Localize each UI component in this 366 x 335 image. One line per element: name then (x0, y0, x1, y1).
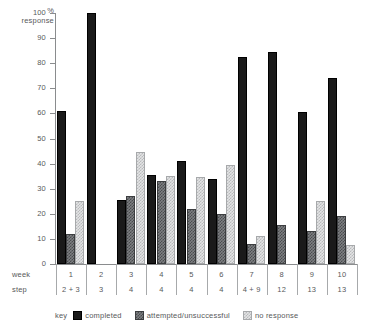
bar-completed-week-7 (238, 57, 247, 264)
step-label-8: 12 (267, 285, 297, 294)
bar-completed-week-1 (57, 111, 66, 264)
y-axis-tick-label: 100 (12, 8, 46, 17)
bar-noresponse-week-5 (196, 177, 205, 264)
bar-attempted-week-6 (217, 214, 226, 264)
step-label-3: 4 (116, 285, 146, 294)
y-axis-tick-label: 0 (12, 259, 46, 268)
bar-noresponse-week-3 (136, 152, 145, 264)
bar-noresponse-week-7 (256, 236, 265, 264)
bar-noresponse-week-9 (316, 201, 325, 264)
y-axis-tick-label: 80 (12, 58, 46, 67)
step-row-label: step (12, 285, 54, 294)
bar-completed-week-2 (87, 13, 96, 264)
bar-completed-week-10 (328, 78, 337, 264)
bar-completed-week-8 (268, 52, 277, 264)
step-label-7: 4 + 9 (237, 285, 267, 294)
bar-attempted-week-8 (277, 225, 286, 264)
legend-swatch-completed-icon (73, 311, 82, 320)
step-label-2: 3 (86, 285, 116, 294)
legend-item-attempted: attempted/unsuccessful (135, 311, 230, 320)
bar-attempted-week-10 (337, 216, 346, 264)
step-label-1: 2 + 3 (56, 285, 86, 294)
bar-completed-week-3 (117, 200, 126, 264)
bar-attempted-week-3 (126, 196, 135, 264)
legend-label: no response (255, 311, 298, 320)
legend-item-completed: completed (73, 311, 121, 320)
legend: key completedattempted/unsuccessfulno re… (55, 309, 311, 321)
step-label-6: 4 (207, 285, 237, 294)
week-label-6: 6 (207, 270, 237, 279)
legend-swatch-attempted-icon (135, 311, 144, 320)
bar-noresponse-week-4 (166, 176, 175, 264)
y-axis-tick-label: 10 (12, 234, 46, 243)
bar-attempted-week-1 (66, 234, 75, 264)
step-label-4: 4 (146, 285, 176, 294)
legend-title: key (55, 311, 67, 320)
bar-attempted-week-9 (307, 231, 316, 264)
legend-label: completed (85, 311, 121, 320)
y-axis-tick-label: 90 (12, 33, 46, 42)
bar-noresponse-week-6 (226, 165, 235, 264)
bar-attempted-week-5 (187, 209, 196, 264)
step-label-9: 13 (297, 285, 327, 294)
y-axis-tick-label: 60 (12, 108, 46, 117)
y-axis-tick-label: 70 (12, 83, 46, 92)
week-label-9: 9 (297, 270, 327, 279)
week-label-4: 4 (146, 270, 176, 279)
legend-swatch-noresponse-icon (243, 311, 252, 320)
week-label-1: 1 (56, 270, 86, 279)
week-label-3: 3 (116, 270, 146, 279)
week-label-8: 8 (267, 270, 297, 279)
bar-noresponse-week-1 (75, 201, 84, 264)
bar-chart: % response 1009080706050403020100 week s… (0, 0, 366, 335)
bar-attempted-week-4 (157, 181, 166, 264)
y-axis-tick-label: 40 (12, 159, 46, 168)
y-axis-tick-label: 30 (12, 184, 46, 193)
step-label-10: 13 (327, 285, 357, 294)
plot-area (56, 13, 357, 264)
week-row-label: week (12, 270, 54, 279)
y-axis-tick-label: 20 (12, 209, 46, 218)
bar-noresponse-week-10 (346, 245, 355, 264)
category-divider (357, 264, 358, 295)
bar-attempted-week-7 (247, 244, 256, 264)
bar-completed-week-6 (208, 179, 217, 264)
week-label-7: 7 (237, 270, 267, 279)
bar-completed-week-9 (298, 112, 307, 264)
bar-completed-week-4 (147, 175, 156, 264)
legend-item-noresponse: no response (243, 311, 298, 320)
bar-completed-week-5 (177, 161, 186, 264)
week-label-5: 5 (176, 270, 206, 279)
step-label-5: 4 (176, 285, 206, 294)
legend-label: attempted/unsuccessful (147, 311, 230, 320)
y-axis-tick-label: 50 (12, 134, 46, 143)
week-label-2: 2 (86, 270, 116, 279)
week-label-10: 10 (327, 270, 357, 279)
